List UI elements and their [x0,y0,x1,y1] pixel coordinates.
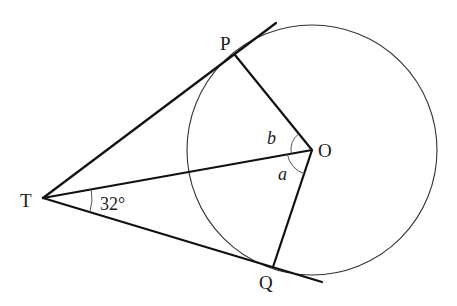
point-label-Q: Q [259,272,273,293]
point-label-T: T [20,190,32,211]
angle-label-T: 32° [100,194,125,214]
angle-label-a: a [278,164,287,184]
point-label-O: O [318,140,332,161]
geometry-diagram: P O T Q b a 32° [0,0,457,306]
angle-arc-b [291,134,299,154]
tangent-line-TQ [43,198,322,282]
angle-label-b: b [267,128,276,148]
angle-arc-a [287,154,304,173]
angle-arc-T [90,189,92,212]
line-TO [43,150,312,198]
tangent-line-TP [43,23,276,198]
point-label-P: P [220,33,231,54]
